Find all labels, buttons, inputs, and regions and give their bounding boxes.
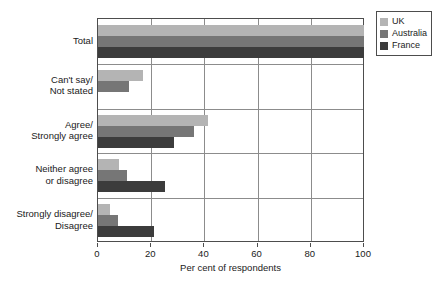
- y-axis-label: Total: [1, 35, 93, 47]
- bar-france: [98, 137, 174, 148]
- bar-australia: [98, 215, 118, 226]
- y-axis-label-line: Total: [1, 35, 93, 47]
- y-axis-label-line: Strongly disagree/: [1, 208, 93, 220]
- y-axis-label-line: Agree/: [1, 119, 93, 131]
- bar-group: [98, 25, 364, 58]
- legend-swatch-icon-australia: [380, 30, 388, 38]
- y-axis-label-line: or disagree: [1, 175, 93, 187]
- bar-australia: [98, 81, 129, 92]
- bar-group: [98, 159, 364, 192]
- x-axis: 020406080100: [0, 243, 448, 263]
- gridline-y-3: [98, 153, 363, 154]
- gridline-y-4: [98, 198, 363, 199]
- legend-item-france: France: [380, 40, 427, 51]
- y-axis-label-line: Neither agree: [1, 163, 93, 175]
- bar-france: [98, 226, 154, 237]
- bar-chart-figure: TotalCan't say/Not statedAgree/Strongly …: [0, 0, 448, 293]
- bar-uk: [98, 159, 119, 170]
- legend-swatch-icon-france: [380, 42, 388, 50]
- bar-uk: [98, 70, 143, 81]
- x-tick-mark: [363, 243, 364, 247]
- legend-swatch-icon-uk: [380, 18, 388, 26]
- x-tick-label: 60: [251, 248, 262, 259]
- bar-australia: [98, 126, 194, 137]
- x-axis-title: Per cent of respondents: [97, 262, 364, 273]
- bar-uk: [98, 204, 110, 215]
- bar-uk: [98, 115, 208, 126]
- y-axis-label: Neither agreeor disagree: [1, 163, 93, 186]
- x-tick-label: 100: [355, 248, 371, 259]
- y-axis-label: Can't say/Not stated: [1, 74, 93, 97]
- legend: UK Australia France: [376, 11, 432, 56]
- x-tick-mark: [203, 243, 204, 247]
- x-tick-label: 20: [145, 248, 156, 259]
- legend-label-uk: UK: [392, 16, 405, 27]
- plot-area: [97, 18, 364, 242]
- legend-label-australia: Australia: [392, 28, 427, 39]
- y-axis-label: Strongly disagree/Disagree: [1, 208, 93, 231]
- bar-australia: [98, 36, 364, 47]
- y-axis-label: Agree/Strongly agree: [1, 119, 93, 142]
- bar-france: [98, 181, 165, 192]
- y-axis-label-line: Not stated: [1, 85, 93, 97]
- x-tick-label: 0: [94, 248, 99, 259]
- x-tick-label: 80: [305, 248, 316, 259]
- x-tick-mark: [257, 243, 258, 247]
- x-tick-mark: [310, 243, 311, 247]
- bar-australia: [98, 170, 127, 181]
- x-tick-mark: [97, 243, 98, 247]
- gridline-y-2: [98, 109, 363, 110]
- bar-group: [98, 70, 364, 103]
- y-axis-label-line: Disagree: [1, 220, 93, 232]
- x-tick-mark: [150, 243, 151, 247]
- legend-item-australia: Australia: [380, 28, 427, 39]
- legend-item-uk: UK: [380, 16, 427, 27]
- bar-group: [98, 115, 364, 148]
- bar-uk: [98, 25, 364, 36]
- x-tick-label: 40: [198, 248, 209, 259]
- y-axis-label-line: Can't say/: [1, 74, 93, 86]
- y-axis-label-line: Strongly agree: [1, 130, 93, 142]
- bar-group: [98, 204, 364, 237]
- legend-label-france: France: [392, 40, 420, 51]
- gridline-y-1: [98, 64, 363, 65]
- bar-france: [98, 47, 364, 58]
